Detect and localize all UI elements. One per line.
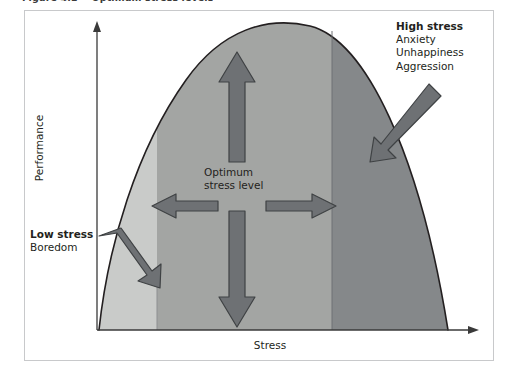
high-stress-line-2: Unhappiness (396, 46, 464, 59)
high-stress-line-1: Anxiety (396, 33, 464, 46)
optimum-line-1: Optimum (204, 166, 263, 179)
high-stress-heading: High stress (396, 20, 464, 33)
x-axis-title: Stress (215, 339, 325, 351)
optimum-line-2: stress level (204, 179, 263, 192)
y-axis-arrowhead (93, 21, 101, 32)
low-stress-line-1: Boredom (30, 241, 93, 254)
optimum-stress-annotation: Optimum stress level (204, 166, 263, 193)
high-stress-line-3: Aggression (396, 60, 464, 73)
y-axis-title: Performance (33, 88, 45, 208)
high-stress-annotation: High stress Anxiety Unhappiness Aggressi… (396, 20, 464, 73)
x-axis-arrowhead (468, 326, 479, 334)
low-stress-heading: Low stress (30, 228, 93, 241)
low-stress-annotation: Low stress Boredom (30, 228, 93, 254)
